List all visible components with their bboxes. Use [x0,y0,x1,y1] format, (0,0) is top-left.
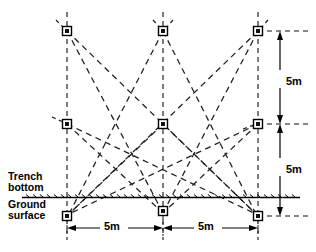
ray-TC-BR [163,31,256,214]
node-leader-ticks [52,20,268,129]
node-mid-right[interactable] [254,120,263,129]
dim-bottom-left-arrow-end [154,225,163,231]
node-bottom-right[interactable] [254,212,263,221]
cross-hole-ray-diagram [0,0,316,252]
ground-horizon [22,195,300,198]
node-mid-left[interactable] [63,120,72,129]
dim-right-upper-arrow-bottom [277,115,283,124]
dim-bottom-right-arrow-start [163,225,172,231]
trench-bottom-label-line2: bottom [8,182,44,193]
dimension-label-bottom-left: 5m [104,221,120,233]
leader-left-ML [52,117,63,122]
node-bottom-center[interactable] [159,207,168,216]
node-top-center[interactable] [159,27,168,36]
ground-hatch-ticks [26,195,295,198]
dim-bottom-left-arrow-start [67,225,76,231]
dim-right-lower-arrow-top [277,124,283,133]
dimension-label-right-lower: 5m [286,164,302,176]
ray-TC-BL [69,31,163,214]
ray-MR-BC [163,124,258,213]
ray-ML-BR [67,124,256,214]
ground-surface-label-line2: surface [8,210,46,221]
dim-right-upper-arrow-top [277,31,283,40]
dimension-extension-lines [258,31,308,216]
ray-TL-BC [67,31,163,213]
dimension-label-right-upper: 5m [286,76,302,88]
node-top-right[interactable] [254,27,263,36]
dimension-label-bottom-right: 5m [198,221,214,233]
leader-left-MR [243,125,254,129]
node-bottom-left[interactable] [63,212,72,221]
ground-surface-label: Ground surface [8,199,46,221]
node-mid-center[interactable] [159,120,168,129]
node-top-left[interactable] [63,27,72,36]
figure-canvas: Trench bottom Ground surface 5m 5m 5m 5m [0,0,316,252]
dim-bottom-right-arrow-end [249,225,258,231]
trench-bottom-label: Trench bottom [8,171,44,193]
ray-TR-BC [163,31,258,213]
dim-right-lower-arrow-bottom [277,207,283,216]
